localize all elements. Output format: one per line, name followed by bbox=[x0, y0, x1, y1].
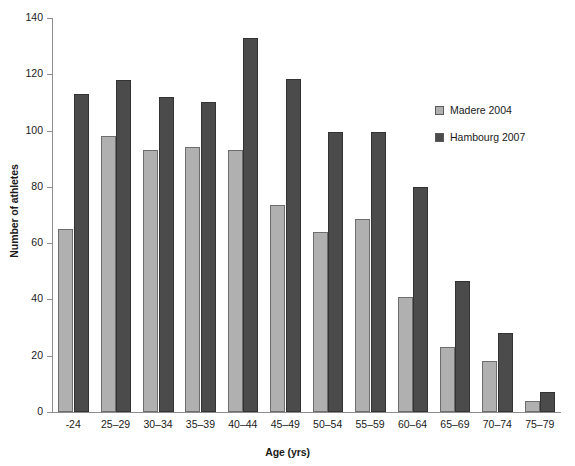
bar-hambourg-2007 bbox=[498, 333, 513, 412]
legend-item-madere-2004: Madere 2004 bbox=[435, 104, 525, 116]
legend-swatch-madere-2004 bbox=[435, 106, 444, 115]
bar-group bbox=[184, 18, 216, 412]
plot-area: 020406080100120140 -2425–2930–3435–3940–… bbox=[52, 18, 561, 412]
bar-madere-2004 bbox=[313, 232, 328, 412]
bar-group bbox=[524, 18, 556, 412]
y-axis-tick-label: 100 bbox=[25, 124, 43, 136]
x-axis-line bbox=[52, 412, 561, 413]
bar-group bbox=[312, 18, 344, 412]
bar-madere-2004 bbox=[398, 297, 413, 412]
y-axis-tick-label: 0 bbox=[37, 405, 43, 417]
bar-hambourg-2007 bbox=[74, 94, 89, 412]
bar-hambourg-2007 bbox=[371, 132, 386, 412]
bar-group bbox=[227, 18, 259, 412]
bar-hambourg-2007 bbox=[540, 392, 555, 412]
bar-chart-figure: Number of athletes 020406080100120140 -2… bbox=[0, 0, 575, 466]
bar-group bbox=[397, 18, 429, 412]
bar-group bbox=[439, 18, 471, 412]
bar-group bbox=[354, 18, 386, 412]
bar-madere-2004 bbox=[101, 136, 116, 412]
bar-madere-2004 bbox=[143, 150, 158, 412]
bar-group bbox=[481, 18, 513, 412]
bar-madere-2004 bbox=[58, 229, 73, 412]
chart-legend: Madere 2004 Hambourg 2007 bbox=[435, 104, 525, 158]
y-axis-tick-label: 120 bbox=[25, 67, 43, 79]
legend-swatch-hambourg-2007 bbox=[435, 133, 444, 142]
bar-hambourg-2007 bbox=[413, 187, 428, 412]
y-axis-tick: 0 bbox=[47, 412, 52, 413]
y-axis-tick-label: 20 bbox=[31, 349, 43, 361]
bar-hambourg-2007 bbox=[116, 80, 131, 412]
bar-madere-2004 bbox=[185, 147, 200, 412]
bar-hambourg-2007 bbox=[328, 132, 343, 412]
bar-madere-2004 bbox=[270, 205, 285, 412]
bar-series-container bbox=[52, 18, 561, 412]
bar-madere-2004 bbox=[440, 347, 455, 412]
y-axis-tick-label: 80 bbox=[31, 180, 43, 192]
legend-item-hambourg-2007: Hambourg 2007 bbox=[435, 131, 525, 143]
bar-hambourg-2007 bbox=[455, 281, 470, 412]
bar-group bbox=[269, 18, 301, 412]
bar-madere-2004 bbox=[228, 150, 243, 412]
bar-group bbox=[57, 18, 89, 412]
y-axis-tick-label: 40 bbox=[31, 292, 43, 304]
bar-hambourg-2007 bbox=[201, 102, 216, 412]
legend-label-madere-2004: Madere 2004 bbox=[450, 104, 512, 116]
legend-label-hambourg-2007: Hambourg 2007 bbox=[450, 131, 525, 143]
x-axis-title: Age (yrs) bbox=[0, 446, 575, 458]
bar-madere-2004 bbox=[355, 219, 370, 412]
bar-hambourg-2007 bbox=[159, 97, 174, 412]
bar-hambourg-2007 bbox=[286, 79, 301, 412]
scan-artifact bbox=[170, 461, 570, 464]
bar-group bbox=[142, 18, 174, 412]
bar-hambourg-2007 bbox=[243, 38, 258, 412]
bar-group bbox=[100, 18, 132, 412]
y-axis-tick-label: 60 bbox=[31, 236, 43, 248]
bar-madere-2004 bbox=[525, 401, 540, 412]
y-axis-title: Number of athletes bbox=[8, 111, 20, 311]
y-axis-tick-label: 140 bbox=[25, 11, 43, 23]
bar-madere-2004 bbox=[482, 361, 497, 412]
x-axis-tick-label: 75–79 bbox=[510, 418, 570, 430]
